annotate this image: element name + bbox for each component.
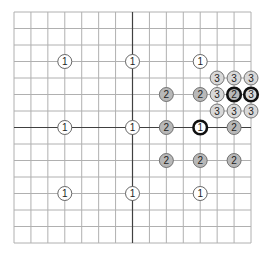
marker-level-2: 2 xyxy=(159,154,173,168)
marker-level-1: 1 xyxy=(126,187,140,201)
marker-level-2: 2 xyxy=(193,88,207,102)
marker-level-1: 1 xyxy=(58,187,72,201)
marker-label: 1 xyxy=(130,188,136,199)
marker-level-2: 2 xyxy=(193,154,207,168)
marker-label: 3 xyxy=(214,106,220,117)
marker-level-3-highlighted: 3 xyxy=(244,88,258,102)
marker-level-3: 3 xyxy=(244,71,258,85)
marker-level-3: 3 xyxy=(227,104,241,118)
marker-label: 3 xyxy=(231,106,237,117)
marker-label: 1 xyxy=(130,122,136,133)
marker-label: 3 xyxy=(248,106,254,117)
marker-level-2: 2 xyxy=(227,154,241,168)
marker-label: 2 xyxy=(231,122,237,133)
marker-label: 2 xyxy=(231,89,237,100)
marker-level-3: 3 xyxy=(227,71,241,85)
marker-label: 1 xyxy=(62,56,68,67)
marker-label: 2 xyxy=(197,89,203,100)
marker-label: 2 xyxy=(197,155,203,166)
marker-level-1: 1 xyxy=(126,55,140,69)
marker-level-1: 1 xyxy=(126,121,140,135)
marker-label: 3 xyxy=(248,89,254,100)
marker-label: 2 xyxy=(164,122,170,133)
marker-level-3: 3 xyxy=(210,71,224,85)
marker-level-3: 3 xyxy=(210,104,224,118)
marker-level-1: 1 xyxy=(193,55,207,69)
marker-label: 2 xyxy=(164,89,170,100)
marker-label: 2 xyxy=(231,155,237,166)
grid-diagram: 1111111112222222233333333 xyxy=(0,0,265,257)
marker-label: 1 xyxy=(130,56,136,67)
marker-level-1: 1 xyxy=(58,55,72,69)
marker-level-3: 3 xyxy=(244,104,258,118)
marker-label: 3 xyxy=(231,73,237,84)
marker-level-1: 1 xyxy=(58,121,72,135)
marker-label: 1 xyxy=(62,122,68,133)
marker-label: 1 xyxy=(62,188,68,199)
marker-label: 3 xyxy=(214,89,220,100)
marker-level-1-highlighted: 1 xyxy=(193,121,207,135)
marker-level-2: 2 xyxy=(159,88,173,102)
marker-level-3: 3 xyxy=(210,88,224,102)
marker-label: 1 xyxy=(197,56,203,67)
marker-level-2: 2 xyxy=(159,121,173,135)
marker-level-2-highlighted: 2 xyxy=(227,88,241,102)
marker-label: 1 xyxy=(197,122,203,133)
marker-label: 3 xyxy=(214,73,220,84)
marker-label: 1 xyxy=(197,188,203,199)
marker-label: 3 xyxy=(248,73,254,84)
marker-label: 2 xyxy=(164,155,170,166)
marker-level-1: 1 xyxy=(193,187,207,201)
marker-level-2: 2 xyxy=(227,121,241,135)
